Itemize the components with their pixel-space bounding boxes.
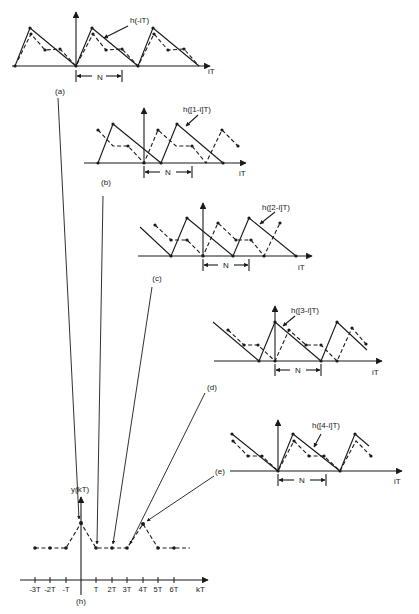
tag-e: (e) [215,467,225,476]
tag-c: (c) [152,274,162,283]
label-pointer [104,26,128,38]
output-panel [20,497,208,595]
axis-label-a: iT [208,67,215,76]
period-e: N [299,476,305,485]
output-tick-labels: -3T -2T -T T 2T 3T 4T 5T 6T [29,585,178,594]
tick-label: -T [62,585,69,594]
output-sequence [35,523,190,548]
solid-waveform [232,434,369,471]
label-pointer [260,212,275,224]
axis-label-b: iT [239,169,246,178]
label-pointer [314,434,321,447]
panel-a [12,12,210,82]
output-ylabel: y(kT) [71,485,90,494]
label-d: h([3-i]T) [291,306,319,315]
tag-a: (a) [55,87,65,96]
tick-label: 5T [154,585,163,594]
arrow-d-to-k3 [130,393,205,544]
arrow-c-to-k2 [113,287,152,544]
period-d: N [295,366,301,375]
solid-waveform [98,124,223,163]
connector-arrows [58,98,214,544]
tick-label: 6T [170,585,179,594]
label-a: h(-iT) [130,16,149,25]
tick-label: -2T [44,585,56,594]
period-a: N [97,73,103,82]
axis-label-d: iT [372,368,379,377]
label-c: h([2-i]T) [262,203,290,212]
tick-label: 2T [108,585,117,594]
output-xlabel: kT [196,585,205,594]
arrow-a-to-k0 [58,98,79,519]
axis-label-c: iT [298,263,305,272]
arrow-e-to-k4 [147,476,214,521]
axis-label-e: iT [394,477,401,486]
period-c: N [223,261,229,270]
tick-label: T [94,585,99,594]
label-e: h([4-i]T) [312,421,340,430]
tag-d: (d) [207,383,217,392]
label-pointer [283,316,295,326]
arrow-b-to-k1 [97,196,103,544]
tick-label: -3T [29,585,41,594]
tick-label: 4T [139,585,148,594]
tag-b: (b) [101,178,111,187]
label-pointer [186,115,198,126]
period-b: N [165,168,171,177]
label-b: h([1-i]T) [183,105,211,114]
tag-h: (h) [76,597,86,606]
dashed-waveform [228,328,366,361]
solid-waveform [213,322,367,361]
convolution-diagram: h(-iT) N (a) iT h([1-i]T) N (b) iT h([2-… [0,0,419,614]
tick-label: 3T [123,585,132,594]
